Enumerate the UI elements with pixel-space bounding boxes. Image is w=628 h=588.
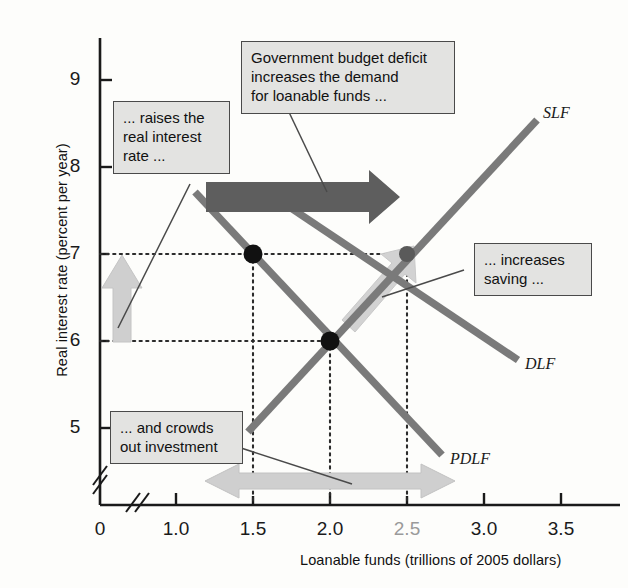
callout-crowds-out: ... and crowds out investment [110,411,243,464]
leader-budget-deficit [287,108,327,192]
rate-rise-arrow [102,255,142,342]
x-tick-label-1-0: 1.0 [152,518,200,540]
y-axis-title: Real interest rate (percent per year) [54,50,70,470]
leader-raises-rate [118,184,190,328]
x-tick-label-2-0: 2.0 [306,518,354,540]
slf-curve-label: SLF [543,104,570,122]
callout-raises-rate: ... raises the real interest rate ... [113,101,230,174]
x-tick-label-2-5: 2.5 [383,518,431,540]
callout-budget-deficit: Government budget deficit increases the … [241,41,455,114]
marker-initial-equilibrium [321,332,340,351]
x-tick-label-1-5: 1.5 [229,518,277,540]
loanable-funds-chart: 9 8 7 6 5 0 1.0 1.5 2.0 2.5 3.0 3.5 Real… [0,0,628,588]
x-tick-label-3-0: 3.0 [460,518,508,540]
dotted-guides [100,254,409,503]
dlf-curve-label: DLF [525,355,555,373]
pdlf-curve-label: PDLF [450,450,490,468]
callout-increases-saving: ... increases saving ... [474,243,592,296]
x-axis-break-icon [126,493,149,512]
marker-private-demand-at-7 [244,245,263,264]
x-tick-label-0: 0 [87,518,113,540]
x-tick-label-3-5: 3.5 [537,518,585,540]
x-axis-title: Loanable funds (trillions of 2005 dollar… [300,552,561,568]
marker-new-equilibrium [399,246,415,262]
